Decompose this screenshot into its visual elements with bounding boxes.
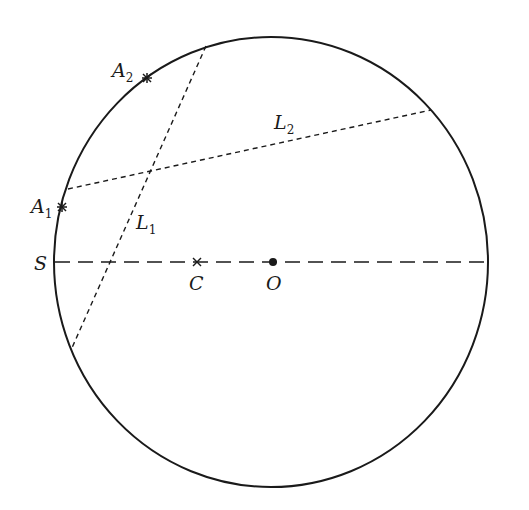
label-a2: A2 bbox=[110, 59, 133, 85]
label-l2: L2 bbox=[273, 111, 294, 137]
point-a1-marker bbox=[57, 202, 67, 212]
point-o-dot bbox=[269, 258, 277, 266]
label-c: C bbox=[189, 272, 204, 294]
label-o: O bbox=[266, 272, 282, 294]
chord-l2 bbox=[68, 110, 431, 189]
diagram-canvas: A2 A1 L1 L2 S C O bbox=[0, 0, 529, 510]
geometry-diagram: A2 A1 L1 L2 S C O bbox=[0, 0, 529, 510]
label-a1: A1 bbox=[29, 195, 52, 221]
point-a2-marker bbox=[142, 73, 152, 83]
label-s: S bbox=[34, 252, 47, 274]
label-l1: L1 bbox=[135, 211, 156, 237]
chord-l1 bbox=[71, 46, 206, 350]
